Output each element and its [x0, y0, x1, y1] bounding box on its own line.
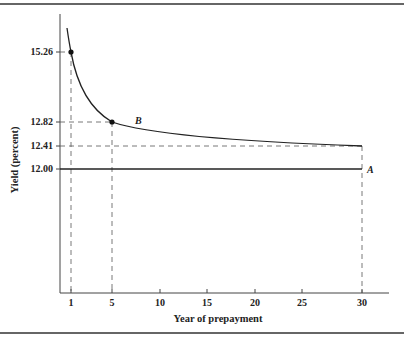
y-axis-title: Yield (percent)	[9, 126, 21, 193]
data-point	[109, 119, 114, 124]
y-tick-label: 12.41	[31, 140, 54, 151]
x-tick-label: 5	[110, 297, 115, 308]
x-axis-title: Year of prepayment	[174, 313, 263, 324]
x-tick-label: 20	[250, 297, 260, 308]
y-tick-label: 12.82	[31, 116, 54, 127]
y-ticks	[56, 52, 60, 169]
chart: 15.26 12.82 12.41 12.00 1 5 10 15 20 25 …	[0, 0, 404, 339]
guide-lines	[60, 52, 362, 293]
x-tick-label: 25	[297, 297, 307, 308]
x-tick-label: 30	[357, 297, 367, 308]
x-ticks	[71, 289, 362, 293]
y-tick-label: 12.00	[31, 163, 54, 174]
data-point	[68, 49, 73, 54]
x-tick-label: 15	[202, 297, 212, 308]
series-b-curve	[67, 28, 362, 146]
x-tick-label: 10	[155, 297, 165, 308]
x-tick-label: 1	[69, 297, 74, 308]
series-a-label: A	[366, 164, 374, 175]
y-tick-label: 15.26	[31, 46, 54, 57]
series-b-label: B	[134, 115, 142, 126]
